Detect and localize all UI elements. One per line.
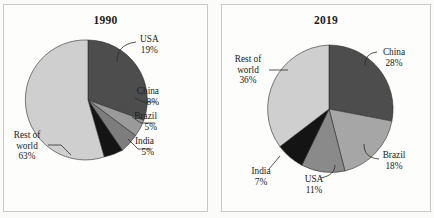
pie-label-china-2019: China 28% bbox=[372, 47, 416, 68]
pie-label-brazil-2019: Brazil 18% bbox=[372, 150, 416, 171]
chart-title-1990: 1990 bbox=[4, 14, 207, 26]
pie-label-china-1990: China 8% bbox=[114, 86, 159, 107]
pie-label-brazil-1990: Brazil 5% bbox=[112, 111, 157, 132]
pie-label-india-2019: India 7% bbox=[243, 166, 279, 187]
chart-panel-1990: 1990 bbox=[3, 4, 208, 212]
chart-panel-2019: 2019 bbox=[221, 4, 431, 212]
pie-chart-figure: 1990 bbox=[0, 0, 434, 218]
chart-title-2019: 2019 bbox=[222, 14, 430, 26]
pie-label-usa-2019: USA 11% bbox=[297, 174, 331, 195]
pie-label-india-1990: India 5% bbox=[109, 136, 154, 157]
pie-label-rest-of-world-1990: Rest of world 63% bbox=[3, 130, 51, 162]
pie-label-usa-1990: USA 19% bbox=[140, 34, 159, 55]
pie-label-rest-of-world-2019: Rest of world 36% bbox=[225, 54, 271, 86]
